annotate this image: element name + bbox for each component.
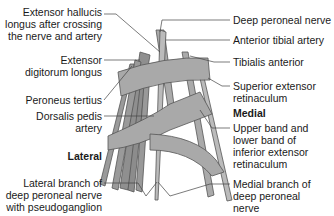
label-dorsalis-pedis-artery: Dorsalis pedis artery [36,110,102,134]
label-lateral-branch: Lateral branch of deep peroneal nerve wi… [6,177,102,213]
label-line: digitorum longus [25,66,102,78]
label-line: the nerve and artery [5,30,102,42]
label-line: artery [36,122,102,134]
label-line: Anterior tibial artery [233,34,324,46]
label-line: Medial branch of [233,178,311,190]
label-line: Lateral branch of [6,177,102,189]
label-lateral: Lateral [68,150,102,162]
leader-ehl [104,14,160,52]
label-line: Dorsalis pedis [36,110,102,122]
label-extensor-hallucis-longus: Extensor hallucis longus after crossing … [5,6,102,42]
label-line: deep peroneal [233,190,311,202]
label-line: longus after crossing [5,18,102,30]
label-medial-branch: Medial branch of deep peroneal nerve [233,178,311,214]
label-anterior-tibial-artery: Anterior tibial artery [233,34,324,46]
label-line: Superior extensor [233,80,316,92]
label-line: Extensor hallucis [5,6,102,18]
label-medial: Medial [233,107,266,119]
label-peroneus-tertius: Peroneus tertius [26,94,102,106]
label-line: Peroneus tertius [26,94,102,106]
label-line: Deep peroneal nerve [233,14,331,26]
label-line: with pseudoganglion [6,201,102,213]
leader-dpn [160,20,230,32]
inferior-retinaculum-lower [150,134,224,176]
label-line: deep peroneal nerve [6,189,102,201]
label-deep-peroneal-nerve: Deep peroneal nerve [233,14,331,26]
leader-ser [208,78,230,86]
label-line: lower band of [233,134,308,146]
label-inferior-extensor-retinaculum: Upper band and lower band of inferior ex… [233,122,308,170]
label-extensor-digitorum-longus: Extensor digitorum longus [25,54,102,78]
label-line: nerve [233,202,311,214]
label-superior-extensor-retinaculum: Superior extensor retinaculum [233,80,316,104]
label-line: Tibialis anterior [233,56,304,68]
label-tibialis-anterior: Tibialis anterior [233,56,304,68]
leader-mbr [170,184,230,196]
label-line: retinaculum [233,158,308,170]
label-line: inferior extensor [233,146,308,158]
label-line: Upper band and [233,122,308,134]
medial-branch [158,182,170,196]
label-line: Extensor [25,54,102,66]
label-line: retinaculum [233,92,316,104]
label-line: Lateral [68,150,102,162]
superior-retinaculum [118,58,210,96]
label-line: Medial [233,107,266,119]
